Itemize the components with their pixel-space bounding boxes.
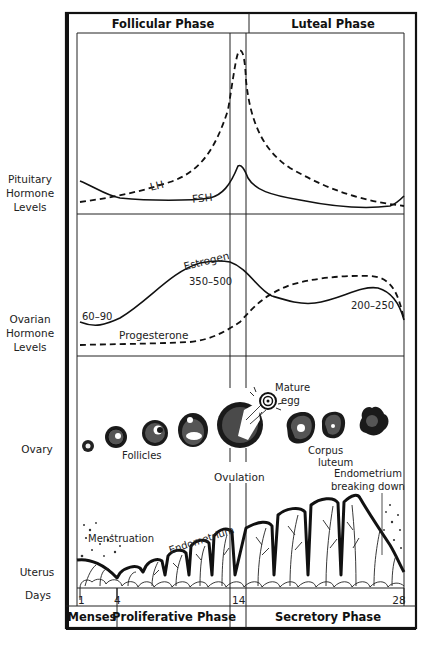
endometrium-breakdown-label-2: breaking down xyxy=(331,481,405,492)
menstrual-cycle-diagram: Follicular Phase Luteal Phase Pituitary … xyxy=(0,0,428,645)
header-luteal-phase: Luteal Phase xyxy=(291,17,375,31)
header-follicular-phase: Follicular Phase xyxy=(112,17,215,31)
estrogen-peak-value: 350–500 xyxy=(189,276,232,287)
row-label-pituitary-1: Pituitary xyxy=(8,173,52,185)
day-tick-28: 28 xyxy=(392,594,405,606)
day-tick-4: 4 xyxy=(114,594,121,606)
day-tick-1: 1 xyxy=(78,594,85,606)
row-label-uterus: Uterus xyxy=(20,566,55,578)
follicle-3 xyxy=(142,420,168,446)
endometrium-breakdown-label-1: Endometrium xyxy=(334,468,402,479)
degenerating-corpus-luteum xyxy=(360,407,389,436)
estrogen-luteal-value: 200–250 xyxy=(351,300,394,311)
row-label-ovarian-1: Ovarian xyxy=(9,313,50,325)
footer-secretory-phase: Secretory Phase xyxy=(275,610,381,624)
row-label-pituitary-3: Levels xyxy=(13,201,46,213)
corpus-luteum-label-2: luteum xyxy=(318,457,353,468)
mature-egg-label-1: Mature xyxy=(275,382,310,393)
footer-menses: Menses xyxy=(68,610,117,624)
row-label-days: Days xyxy=(25,589,51,601)
day-tick-14: 14 xyxy=(232,594,246,606)
lh-label: LH xyxy=(149,178,165,193)
fsh-curve xyxy=(80,166,404,208)
estrogen-curve xyxy=(80,261,404,325)
menstruation-label: Menstruation xyxy=(88,533,154,544)
ovulating-follicle xyxy=(217,402,266,448)
row-label-pituitary-2: Hormone xyxy=(6,187,54,199)
corpus-luteum-1 xyxy=(287,412,315,444)
follicle-4 xyxy=(178,413,208,447)
row-label-ovary: Ovary xyxy=(21,443,52,455)
lh-curve xyxy=(80,51,404,206)
follicle-2 xyxy=(105,426,127,448)
estrogen-early-value: 60–90 xyxy=(82,311,112,322)
row-label-ovarian-3: Levels xyxy=(13,341,46,353)
mature-egg-label-2: egg xyxy=(281,395,300,406)
ovulation-label: Ovulation xyxy=(214,471,265,483)
progesterone-label: Progesterone xyxy=(119,329,188,341)
follicle-1 xyxy=(82,440,94,452)
row-label-ovarian-2: Hormone xyxy=(6,327,54,339)
estrogen-label: Estrogen xyxy=(182,249,230,272)
fsh-label: FSH xyxy=(191,191,213,205)
corpus-luteum-2 xyxy=(322,412,345,438)
corpus-luteum-label-1: Corpus xyxy=(308,445,343,456)
follicles-label: Follicles xyxy=(122,450,162,461)
footer-proliferative-phase: Proliferative Phase xyxy=(112,610,236,624)
